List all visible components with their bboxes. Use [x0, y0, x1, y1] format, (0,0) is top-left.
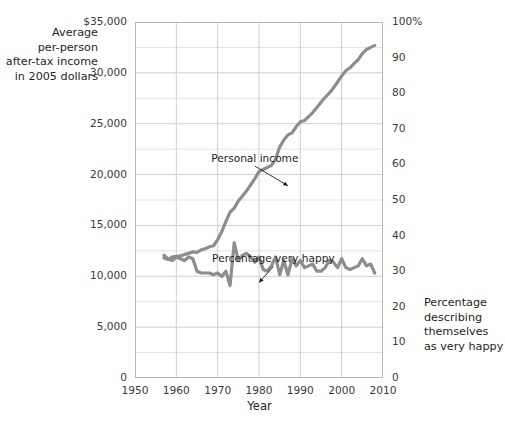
ytick-right-80: 80	[392, 86, 432, 98]
ytick-right-60: 60	[392, 157, 432, 169]
ytick-left-5000: 5,000	[67, 320, 127, 332]
xtick-1960: 1960	[154, 384, 198, 396]
x-axis-title: Year	[135, 399, 384, 413]
right-axis-title: Percentage describing themselves as very…	[424, 296, 505, 354]
xtick-1990: 1990	[278, 384, 322, 396]
ytick-left-20000: 20,000	[67, 168, 127, 180]
chart-figure: Average per-person after-tax income in 2…	[0, 0, 505, 431]
xtick-2010: 2010	[361, 384, 405, 396]
plot-area	[135, 22, 383, 378]
ytick-right-0: 0	[392, 371, 432, 383]
plot-svg	[135, 22, 383, 378]
ytick-right-10: 10	[392, 335, 432, 347]
ytick-right-100: 100%	[392, 15, 432, 27]
ytick-right-70: 70	[392, 122, 432, 134]
annotation-percentage-very-happy: Percentage very happy	[212, 252, 335, 264]
ytick-right-20: 20	[392, 300, 432, 312]
ytick-left-30000: 30,000	[67, 66, 127, 78]
ytick-right-40: 40	[392, 229, 432, 241]
ytick-left-15000: 15,000	[67, 218, 127, 230]
annotation-personal-income: Personal income	[211, 152, 298, 164]
ytick-right-30: 30	[392, 264, 432, 276]
xtick-2000: 2000	[320, 384, 364, 396]
xtick-1970: 1970	[196, 384, 240, 396]
xtick-1950: 1950	[113, 384, 157, 396]
ytick-right-50: 50	[392, 193, 432, 205]
xtick-1980: 1980	[237, 384, 281, 396]
ytick-left-0: 0	[67, 371, 127, 383]
ytick-left-35000: $35,000	[67, 15, 127, 27]
ytick-left-25000: 25,000	[67, 117, 127, 129]
ytick-left-10000: 10,000	[67, 269, 127, 281]
ytick-right-90: 90	[392, 51, 432, 63]
